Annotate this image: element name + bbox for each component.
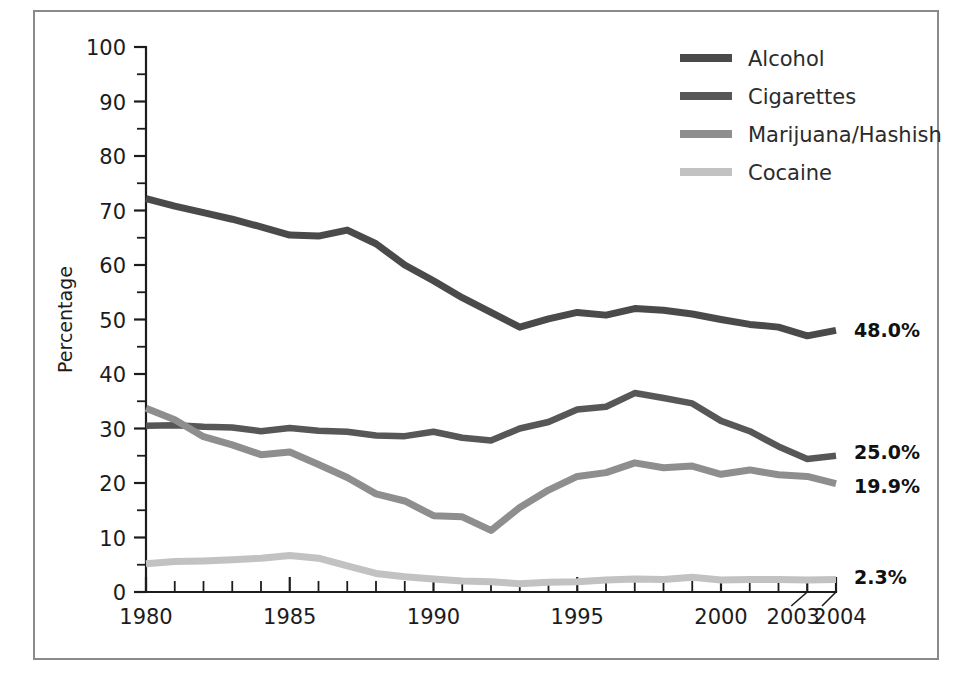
x-tick-label-1985: 1985 (263, 605, 316, 629)
y-tick-label-10: 10 (99, 527, 126, 551)
y-tick-label-70: 70 (99, 200, 126, 224)
x-tick-label-2000: 2000 (694, 605, 747, 629)
y-tick-label-0: 0 (113, 581, 126, 605)
leader-line-2004 (822, 592, 836, 606)
legend-label-cigarettes: Cigarettes (748, 85, 856, 109)
y-tick-label-100: 100 (86, 36, 126, 60)
y-tick-label-60: 60 (99, 254, 126, 278)
end-value-label-alcohol: 48.0% (854, 319, 920, 341)
end-value-label-marijuana-hashish: 19.9% (854, 475, 920, 497)
series-line-cocaine (146, 555, 836, 583)
legend-label-alcohol: Alcohol (748, 47, 825, 71)
y-tick-label-20: 20 (99, 472, 126, 496)
end-value-label-cocaine: 2.3% (854, 566, 907, 588)
y-tick-label-30: 30 (99, 418, 126, 442)
x-tick-label-1980: 1980 (119, 605, 172, 629)
x-tick-label-1990: 1990 (407, 605, 460, 629)
y-tick-label-40: 40 (99, 363, 126, 387)
legend-label-cocaine: Cocaine (748, 161, 832, 185)
line-chart-plot: 0102030405060708090100198019851990199520… (0, 0, 962, 683)
x-tick-label-2004: 2004 (813, 605, 866, 629)
series-line-alcohol (146, 199, 836, 336)
chart-figure: 0102030405060708090100198019851990199520… (0, 0, 962, 683)
y-tick-label-90: 90 (99, 91, 126, 115)
leader-line-2003 (791, 592, 807, 606)
end-value-label-cigarettes: 25.0% (854, 441, 920, 463)
legend-label-marijuana-hashish: Marijuana/Hashish (748, 123, 942, 147)
x-tick-label-1995: 1995 (551, 605, 604, 629)
y-tick-label-80: 80 (99, 145, 126, 169)
y-axis-title: Percentage (54, 266, 76, 373)
x-tick-label-2003: 2003 (767, 605, 820, 629)
y-tick-label-50: 50 (99, 309, 126, 333)
